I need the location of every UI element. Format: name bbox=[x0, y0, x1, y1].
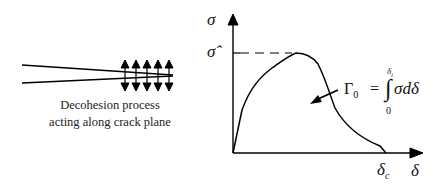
sigma-hat-label: σ̂ bbox=[207, 42, 215, 62]
delta-c-label: δc bbox=[377, 160, 389, 181]
x-axis-label: δ bbox=[411, 161, 419, 181]
decohesion-arrows bbox=[121, 60, 173, 91]
integrand: σdδ bbox=[394, 79, 419, 99]
fracture-energy-equation: Γ0 = δt ∫ 0 σdδ bbox=[344, 72, 438, 132]
delta-c-symbol: δ bbox=[377, 160, 385, 179]
caption-line-1: Decohesion process bbox=[35, 97, 185, 114]
lower-limit: 0 bbox=[386, 105, 391, 116]
delta-c-subscript: c bbox=[385, 170, 389, 181]
integral-sign: ∫ bbox=[385, 75, 392, 102]
gamma-symbol: Γ0 bbox=[344, 80, 358, 100]
y-axis-label: σ bbox=[207, 10, 215, 30]
left-caption: Decohesion process acting along crack pl… bbox=[35, 97, 185, 131]
caption-line-2: acting along crack plane bbox=[35, 114, 185, 131]
annotation-arrow bbox=[310, 90, 338, 104]
equals-sign: = bbox=[370, 80, 379, 98]
